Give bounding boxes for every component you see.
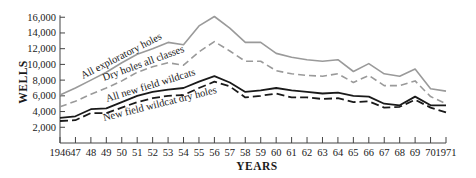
y-tick-label: 8,000 (32, 75, 56, 86)
x-tick-label: 67 (379, 147, 390, 158)
x-tick-label: 47 (70, 147, 81, 158)
y-tick-label: 6,000 (32, 90, 56, 101)
x-tick-label: 66 (364, 147, 375, 158)
x-axis-title: YEARS (236, 160, 277, 172)
x-tick-label: 60 (271, 147, 282, 158)
x-tick-label: 58 (240, 147, 251, 158)
wells-line-chart: 2,0004,0006,0008,00010,00012,00014,00016… (0, 0, 476, 178)
x-tick-label: 65 (348, 147, 359, 158)
x-tick-label: 54 (178, 147, 189, 158)
x-tick-label: 63 (317, 147, 328, 158)
y-tick-label: 4,000 (32, 106, 56, 117)
x-tick-label: 69 (410, 147, 421, 158)
x-tick-label: 48 (86, 147, 97, 158)
y-tick-label: 10,000 (27, 59, 56, 70)
x-tick-label: 51 (132, 147, 143, 158)
x-tick-label: 55 (194, 147, 205, 158)
x-axis: 1946474849505152535455565758596061626364… (50, 137, 457, 158)
x-tick-label: 53 (163, 147, 174, 158)
y-axis: 2,0004,0006,0008,00010,00012,00014,00016… (27, 12, 65, 143)
y-tick-label: 2,000 (32, 122, 56, 133)
y-tick-label: 12,000 (27, 43, 56, 54)
x-tick-label: 64 (333, 147, 344, 158)
x-tick-label: 52 (147, 147, 158, 158)
x-tick-label: 57 (225, 147, 236, 158)
x-tick-label: 70 (425, 147, 436, 158)
x-tick-label: 59 (255, 147, 266, 158)
x-tick-label: 62 (302, 147, 313, 158)
y-tick-label: 14,000 (27, 27, 56, 38)
x-tick-label: 50 (117, 147, 128, 158)
y-tick-label: 16,000 (27, 12, 56, 23)
x-tick-label: 1946 (50, 147, 71, 158)
x-tick-label: 49 (101, 147, 112, 158)
y-axis-title: WELLS (17, 60, 29, 103)
x-tick-label: 1971 (436, 147, 457, 158)
x-tick-label: 61 (286, 147, 297, 158)
x-tick-label: 56 (209, 147, 220, 158)
x-tick-label: 68 (394, 147, 405, 158)
